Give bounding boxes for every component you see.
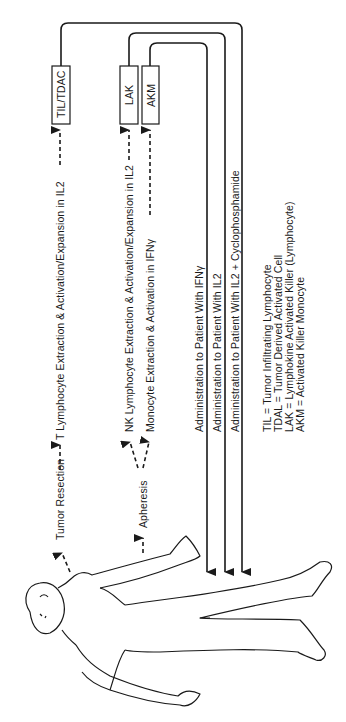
apheresis-text: Apheresis bbox=[137, 480, 149, 528]
patient-figure bbox=[26, 536, 332, 706]
legend-item-akm: AKM = Activated Killer Monocyte bbox=[295, 201, 306, 432]
tumor-resection-arrow bbox=[62, 553, 70, 572]
tumor-resection-text: Tumor Resection bbox=[54, 459, 66, 540]
t-lymphocyte-text: T Lymphocyte Extraction & Activation/Exp… bbox=[54, 181, 66, 440]
til-tdac-label: TIL/TDAC bbox=[55, 71, 67, 118]
monocyte-text: Monocyte Extraction & Activation in IFNγ bbox=[144, 239, 156, 432]
lak-label: LAK bbox=[123, 85, 135, 105]
legend: TIL = Tumor Infiltrating Lymphocyte TDAL… bbox=[262, 201, 306, 432]
administration-il2-cyclo-text: Administration to Patient With IL2 + Cyc… bbox=[229, 170, 241, 432]
akm-label: AKM bbox=[145, 84, 157, 107]
apheresis-to-monocyte-arrow bbox=[143, 442, 149, 468]
administration-ifn-text: Administration to Patient With IFNγ bbox=[193, 266, 205, 432]
apheresis-to-nk-arrow bbox=[130, 442, 138, 468]
administration-il2-text: Administration to Patient With IL2 bbox=[211, 273, 223, 432]
nk-lymphocyte-text: NK Lymphocyte Extraction & Activation/Ex… bbox=[123, 165, 135, 432]
